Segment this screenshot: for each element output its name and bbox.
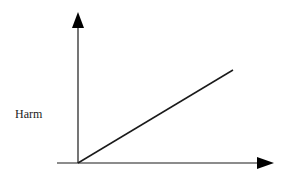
y-axis-label: Harm (15, 107, 42, 121)
harm-line (78, 70, 233, 163)
y-axis-arrow-icon (72, 12, 84, 28)
diagram-canvas (0, 0, 287, 180)
harm-diagram: Harm (0, 0, 287, 180)
x-axis-arrow-icon (257, 157, 274, 169)
